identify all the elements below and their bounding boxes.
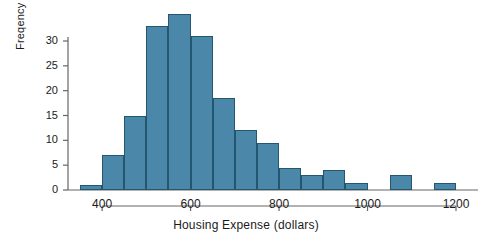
histogram-bar: [102, 155, 124, 190]
histogram-bar: [434, 183, 456, 190]
histogram-figure: 051015202530 40060080010001200 Freqency …: [0, 0, 492, 243]
histogram-bar: [213, 98, 235, 190]
x-tick-label: 400: [82, 197, 122, 211]
chart-axes: [0, 0, 492, 243]
histogram-bar: [168, 14, 190, 190]
x-tick-label: 800: [259, 197, 299, 211]
y-tick-label: 25: [32, 59, 58, 71]
y-tick-label: 5: [32, 158, 58, 170]
histogram-bar: [80, 185, 102, 190]
x-tick-label: 1200: [436, 197, 476, 211]
histogram-bar: [390, 175, 412, 190]
histogram-bar: [345, 183, 367, 190]
x-tick-label: 600: [171, 197, 211, 211]
histogram-bar: [301, 175, 323, 190]
x-tick-label: 1000: [348, 197, 388, 211]
histogram-bar: [235, 130, 257, 190]
histogram-bar: [279, 168, 301, 190]
histogram-bar: [124, 116, 146, 191]
histogram-bar: [323, 170, 345, 190]
y-tick-label: 20: [32, 84, 58, 96]
y-axis-label: Freqency: [14, 0, 26, 50]
y-tick-label: 0: [32, 183, 58, 195]
y-tick-label: 10: [32, 133, 58, 145]
y-tick-label: 30: [32, 34, 58, 46]
x-axis-label: Housing Expense (dollars): [0, 218, 492, 232]
histogram-bar: [257, 143, 279, 190]
histogram-bar: [146, 26, 168, 190]
histogram-bar: [191, 36, 213, 190]
y-tick-label: 15: [32, 109, 58, 121]
